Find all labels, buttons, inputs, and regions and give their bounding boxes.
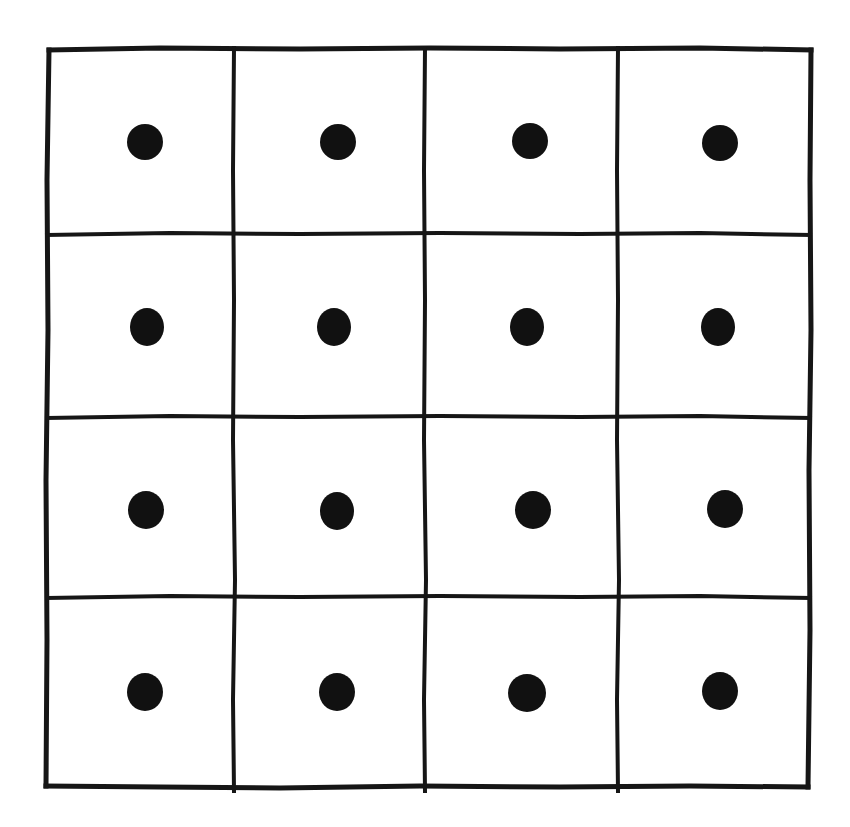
cell-dot-r2c4 (701, 308, 735, 346)
cell-dot-r1c3 (512, 123, 548, 159)
grid-vline-3 (617, 48, 619, 791)
grid-border-bottom (46, 786, 808, 788)
cell-dot-r1c1 (127, 124, 163, 160)
cell-dot-r4c2 (319, 673, 355, 711)
cell-dot-r4c1 (127, 673, 163, 711)
cell-dot-r1c2 (320, 124, 356, 160)
grid-hline-1 (47, 233, 810, 235)
cell-dot-r3c4 (707, 490, 743, 528)
cell-dot-r2c3 (510, 308, 544, 346)
cell-dot-r3c2 (320, 492, 354, 530)
figure-canvas: Hand-drawn square grid of 4 rows by 4 co… (0, 0, 850, 827)
cell-dot-r3c1 (128, 491, 164, 529)
grid-vline-2 (424, 48, 426, 791)
grid-border-top (49, 48, 811, 50)
cell-dot-r4c3 (508, 674, 546, 712)
cell-dot-r2c2 (317, 308, 351, 346)
grid-of-dots-figure (0, 0, 850, 827)
cell-dot-r4c4 (702, 672, 738, 710)
grid-hline-2 (47, 416, 810, 418)
grid-vline-1 (233, 48, 235, 791)
cell-dot-r3c3 (515, 491, 551, 529)
grid-hline-3 (47, 596, 810, 598)
cell-dot-r1c4 (702, 125, 738, 161)
cell-dot-r2c1 (130, 308, 164, 346)
